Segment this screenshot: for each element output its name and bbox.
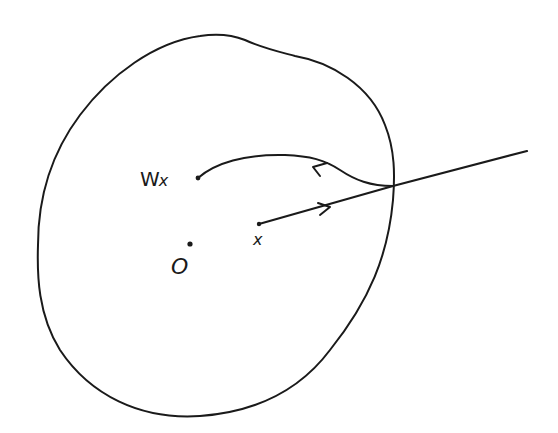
diagram-canvas — [0, 0, 558, 433]
region-boundary — [38, 35, 394, 417]
label-x: x — [253, 230, 262, 249]
label-wx-main: W — [140, 167, 159, 191]
return-arrowhead-icon — [313, 163, 327, 176]
label-wx-subscript: x — [159, 171, 167, 190]
point-wx — [196, 176, 201, 181]
label-wx: Wx — [140, 167, 167, 191]
return-curve — [198, 155, 393, 186]
label-origin: O — [171, 254, 188, 279]
point-origin — [187, 241, 192, 246]
point-x — [257, 222, 261, 226]
